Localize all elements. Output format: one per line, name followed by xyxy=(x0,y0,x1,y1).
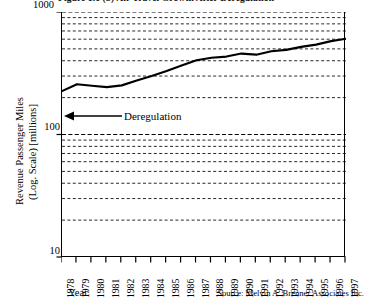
x-tick-label-1996: 1996 xyxy=(334,279,345,298)
x-tick-label-1991: 1991 xyxy=(259,279,270,298)
figure-title: Figure 1.1 (b) Air Travel Growth After D… xyxy=(58,0,363,3)
x-tick-label-1989: 1989 xyxy=(229,279,240,298)
data-line xyxy=(62,12,346,257)
x-tick-label-1984: 1984 xyxy=(155,279,166,298)
x-tick-label-1981: 1981 xyxy=(110,279,121,298)
x-tick-label-1986: 1986 xyxy=(185,279,196,298)
x-tick-label-1983: 1983 xyxy=(140,279,151,298)
x-tick-label-1987: 1987 xyxy=(200,279,211,298)
y-tick-label-100: 100 xyxy=(20,121,60,132)
y-axis-title-line2: (Log. Scale) [millions] xyxy=(27,104,38,200)
x-tick-label-1982: 1982 xyxy=(125,279,136,298)
x-tick-label-1978: 1978 xyxy=(65,279,76,298)
x-tick-label-1992: 1992 xyxy=(274,279,285,298)
x-axis-ticks xyxy=(61,257,346,264)
deregulation-annotation: Deregulation xyxy=(64,108,234,128)
left-arrow-icon xyxy=(64,108,124,124)
x-tick-label-1990: 1990 xyxy=(244,279,255,298)
deregulation-label: Deregulation xyxy=(124,110,181,122)
plot-area xyxy=(61,12,345,257)
y-axis-ticks xyxy=(55,12,62,258)
x-tick-label-1988: 1988 xyxy=(214,279,225,298)
x-tick-label-1993: 1993 xyxy=(289,279,300,298)
x-tick-label-1980: 1980 xyxy=(95,279,106,298)
x-tick-label-1995: 1995 xyxy=(319,279,330,298)
y-tick-label-1000: 1000 xyxy=(14,0,54,10)
y-tick-label-10: 10 xyxy=(20,245,60,256)
figure-chart: Figure 1.1 (b) Air Travel Growth After D… xyxy=(0,0,367,303)
x-tick-label-1994: 1994 xyxy=(304,279,315,298)
x-tick-label-1979: 1979 xyxy=(80,279,91,298)
x-tick-label-1985: 1985 xyxy=(170,279,181,298)
x-tick-label-1997: 1997 xyxy=(349,279,360,298)
y-axis-title-line1: Revenue Passenger Miles xyxy=(14,97,25,205)
